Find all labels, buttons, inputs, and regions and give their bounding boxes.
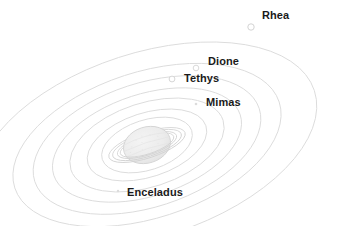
- moon-marker-tethys[interactable]: [169, 76, 175, 82]
- moon-marker-rhea[interactable]: [248, 24, 254, 30]
- moon-marker-enceladus[interactable]: [117, 190, 119, 192]
- moon-label-rhea: Rhea: [262, 10, 289, 21]
- saturn-planet: [103, 116, 190, 175]
- moon-label-tethys: Tethys: [184, 73, 219, 84]
- diagram-canvas: Rhea Dione Tethys Mimas Enceladus: [0, 0, 351, 226]
- moon-marker-mimas[interactable]: [195, 103, 198, 106]
- moon-marker-dione[interactable]: [193, 65, 199, 71]
- moon-label-dione: Dione: [208, 56, 239, 67]
- moon-label-enceladus: Enceladus: [127, 187, 183, 198]
- moon-label-mimas: Mimas: [206, 97, 241, 108]
